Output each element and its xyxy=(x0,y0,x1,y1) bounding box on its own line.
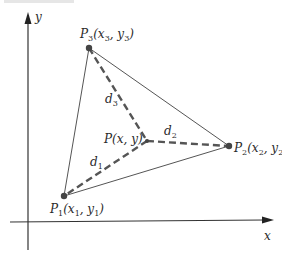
point-p xyxy=(145,139,149,143)
label-d1: d1 xyxy=(90,155,103,171)
point-p2 xyxy=(226,143,232,149)
side-p3-p1 xyxy=(64,48,89,196)
y-axis-arrow-icon xyxy=(25,12,32,24)
x-axis-arrow-icon xyxy=(262,217,274,224)
point-p3 xyxy=(86,45,92,51)
y-axis-label: y xyxy=(34,10,42,24)
distance-d1 xyxy=(64,141,147,196)
label-p: P(x, y) xyxy=(103,132,143,146)
x-axis xyxy=(10,220,264,222)
label-p1: P1(x1, y1) xyxy=(49,202,104,218)
distance-d3 xyxy=(89,48,147,141)
point-p1 xyxy=(61,193,67,199)
side-p1-p2 xyxy=(64,146,229,196)
distance-d2 xyxy=(147,141,229,146)
triangle-distance-diagram: y x P3(x3, y3) P2(x2, y2) P1 xyxy=(0,0,282,254)
label-d2: d2 xyxy=(164,124,177,140)
label-d3: d3 xyxy=(105,92,118,108)
label-p3: P3(x3, y3) xyxy=(79,27,134,43)
caption-remnant xyxy=(4,0,74,3)
triangle xyxy=(64,48,229,196)
x-axis-label: x xyxy=(264,229,271,243)
distance-segments xyxy=(64,48,229,196)
label-p2: P2(x2, y2) xyxy=(233,141,282,157)
